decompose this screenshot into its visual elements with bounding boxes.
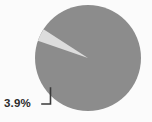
pie-chart: 3.9%	[0, 0, 152, 122]
slice-percentage-label: 3.9%	[4, 96, 44, 111]
